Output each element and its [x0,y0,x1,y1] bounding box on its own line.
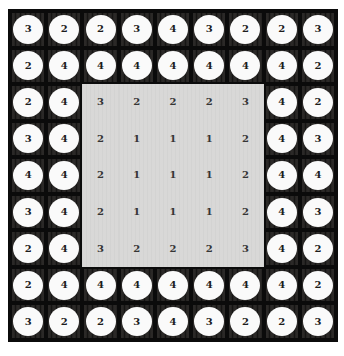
board-cell-token[interactable]: 4 [46,121,82,158]
board-cell-plain[interactable]: 2 [119,84,155,121]
board-cell-plain[interactable]: 2 [119,230,155,267]
board-cell-plain[interactable]: 3 [82,230,118,267]
cell-value: 4 [278,61,285,71]
board-cell-token[interactable]: 4 [46,48,82,85]
board-cell-token[interactable]: 3 [300,11,336,48]
board-cell-token[interactable]: 4 [46,84,82,121]
cell-value: 3 [314,207,321,217]
board-cell-token[interactable]: 4 [46,157,82,194]
board-cell-token[interactable]: 4 [82,267,118,304]
board-cell-plain[interactable]: 1 [191,121,227,158]
board-cell-token[interactable]: 4 [46,194,82,231]
board-cell-token[interactable]: 4 [155,303,191,340]
board-cell-token[interactable]: 4 [119,48,155,85]
board-cell-token[interactable]: 2 [300,267,336,304]
cell-value: 1 [206,134,213,144]
board-cell-token[interactable]: 4 [82,48,118,85]
board-cell-token[interactable]: 3 [300,194,336,231]
board-cell-token[interactable]: 4 [119,267,155,304]
board-cell-token[interactable]: 2 [46,303,82,340]
board-cell-plain[interactable]: 2 [155,84,191,121]
board-cell-token[interactable]: 2 [300,84,336,121]
board-cell-token[interactable]: 2 [264,11,300,48]
board-cell-token[interactable]: 3 [119,303,155,340]
board-cell-token[interactable]: 2 [46,11,82,48]
cell-value: 2 [242,134,249,144]
board-cell-token[interactable]: 2 [300,48,336,85]
board-cell-plain[interactable]: 2 [227,194,263,231]
board-cell-token[interactable]: 3 [300,303,336,340]
board-cell-token[interactable]: 3 [10,194,46,231]
board-cell-token[interactable]: 3 [191,303,227,340]
board-cell-plain[interactable]: 2 [82,194,118,231]
board-cell-plain[interactable]: 2 [227,157,263,194]
board-cell-plain[interactable]: 2 [82,157,118,194]
board-cell-token[interactable]: 4 [264,157,300,194]
board-cell-token[interactable]: 3 [191,11,227,48]
board-cell-token[interactable]: 4 [191,267,227,304]
board-cell-token[interactable]: 2 [82,11,118,48]
cell-value: 4 [278,280,285,290]
board-cell-token[interactable]: 4 [264,121,300,158]
board-cell-token[interactable]: 4 [46,230,82,267]
board-cell-plain[interactable]: 1 [155,157,191,194]
board-cell-plain[interactable]: 1 [191,157,227,194]
board-cell-plain[interactable]: 1 [119,157,155,194]
board-cell-token[interactable]: 2 [82,303,118,340]
board-cell-token[interactable]: 2 [300,230,336,267]
board-cell-plain[interactable]: 3 [227,84,263,121]
cell-value: 4 [61,134,68,144]
board-cell-token[interactable]: 4 [300,157,336,194]
board-cell-plain[interactable]: 1 [191,194,227,231]
board-cell-token[interactable]: 4 [155,11,191,48]
cell-value: 2 [97,134,104,144]
board-cell-plain[interactable]: 1 [119,121,155,158]
board-cell-token[interactable]: 4 [264,194,300,231]
cell-value: 4 [242,61,249,71]
board-cell-token[interactable]: 4 [227,267,263,304]
board-cell-token[interactable]: 4 [227,48,263,85]
board-cell-token[interactable]: 4 [264,48,300,85]
board-cell-plain[interactable]: 1 [155,194,191,231]
token-circle: 4 [122,51,152,80]
board-cell-plain[interactable]: 2 [227,121,263,158]
board-cell-token[interactable]: 3 [300,121,336,158]
board-cell-plain[interactable]: 2 [82,121,118,158]
board-cell-plain[interactable]: 3 [82,84,118,121]
cell-value: 2 [97,170,104,180]
board-cell-token[interactable]: 3 [10,11,46,48]
token-circle: 3 [13,198,43,227]
board-cell-token[interactable]: 2 [227,303,263,340]
board-cell-token[interactable]: 2 [10,267,46,304]
board-cell-token[interactable]: 3 [10,303,46,340]
board-cell-plain[interactable]: 1 [119,194,155,231]
board-cell-plain[interactable]: 2 [191,84,227,121]
board-cell-token[interactable]: 2 [10,84,46,121]
board-cell-token[interactable]: 2 [227,11,263,48]
board-cell-token[interactable]: 4 [264,84,300,121]
token-circle: 4 [49,198,79,227]
board-cell-token[interactable]: 3 [10,121,46,158]
board-cell-plain[interactable]: 2 [191,230,227,267]
cell-value: 3 [25,317,32,327]
board-cell-token[interactable]: 4 [155,48,191,85]
board-cell-token[interactable]: 2 [10,230,46,267]
board-cell-plain[interactable]: 3 [227,230,263,267]
cell-value: 4 [206,280,213,290]
board-cell-token[interactable]: 2 [264,303,300,340]
board-cell-token[interactable]: 4 [191,48,227,85]
board-cell-token[interactable]: 4 [155,267,191,304]
board-cell-token[interactable]: 4 [46,267,82,304]
token-circle: 4 [86,51,116,80]
board-cell-token[interactable]: 4 [10,157,46,194]
token-circle: 4 [122,271,152,300]
board-cell-plain[interactable]: 1 [155,121,191,158]
token-circle: 4 [267,234,297,263]
board-cell-token[interactable]: 4 [264,267,300,304]
token-circle: 3 [303,124,333,153]
cell-value: 3 [133,317,140,327]
board-cell-token[interactable]: 3 [119,11,155,48]
board-cell-token[interactable]: 4 [264,230,300,267]
board-cell-token[interactable]: 2 [10,48,46,85]
board-cell-plain[interactable]: 2 [155,230,191,267]
